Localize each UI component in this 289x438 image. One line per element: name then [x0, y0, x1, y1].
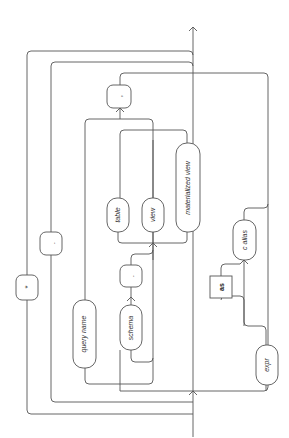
materialized-view-node: materialized view: [176, 143, 200, 232]
svg-text:query name: query name: [80, 315, 88, 352]
svg-text:materialized view: materialized view: [184, 160, 191, 215]
svg-text:.: .: [127, 275, 136, 277]
svg-text:view: view: [149, 207, 156, 222]
svg-text:*: *: [23, 285, 32, 288]
svg-text:table: table: [114, 207, 121, 222]
star-node: *: [16, 275, 38, 300]
view-node: view: [142, 198, 164, 232]
dot-inner-node: .: [120, 265, 142, 287]
comma-node: ,: [107, 85, 131, 108]
svg-text:schema: schema: [127, 316, 134, 341]
svg-text:,: ,: [115, 95, 124, 97]
schema-node: schema: [120, 305, 142, 350]
svg-text:as: as: [218, 283, 225, 291]
query-name-node: query name: [73, 300, 96, 368]
svg-text:expr: expr: [263, 358, 271, 372]
expr-node: expr: [256, 345, 278, 385]
svg-text:c alias: c alias: [241, 230, 248, 250]
syntax-diagram: * . , query name schema . table view mat…: [0, 0, 289, 438]
table-node: table: [107, 198, 129, 232]
as-node: as: [210, 276, 232, 298]
svg-text:.: .: [48, 242, 57, 244]
c-alias-node: c alias: [233, 220, 256, 260]
dot-outer-node: .: [40, 232, 62, 255]
